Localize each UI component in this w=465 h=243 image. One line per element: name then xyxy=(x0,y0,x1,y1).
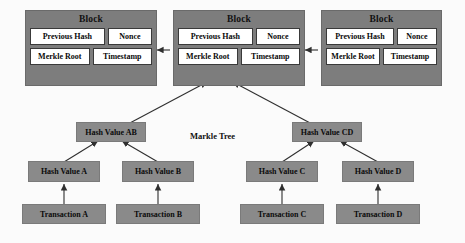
block-1-row-1: Previous Hash Nonce xyxy=(30,28,152,45)
block-2-nonce[interactable]: Nonce xyxy=(256,28,300,45)
block-3-row-1: Previous Hash Nonce xyxy=(326,28,437,45)
block-2-row-1: Previous Hash Nonce xyxy=(178,28,300,45)
block-1-previous-hash[interactable]: Previous Hash xyxy=(30,28,105,45)
block-1[interactable]: Block Previous Hash Nonce Merkle Root Ti… xyxy=(25,10,157,86)
block-2-row-2: Merkle Root Timestamp xyxy=(178,48,300,65)
node-hash-value-ab[interactable]: Hash Value AB xyxy=(76,122,146,142)
block-1-nonce[interactable]: Nonce xyxy=(108,28,152,45)
node-hash-value-a[interactable]: Hash Value A xyxy=(28,161,100,182)
block-1-timestamp[interactable]: Timestamp xyxy=(93,48,153,65)
block-3-header: Block xyxy=(322,11,441,28)
block-3-previous-hash[interactable]: Previous Hash xyxy=(326,28,394,45)
block-1-header: Block xyxy=(26,11,156,28)
node-transaction-d[interactable]: Transaction D xyxy=(336,204,420,224)
block-3-timestamp[interactable]: Timestamp xyxy=(383,48,437,65)
block-1-row-2: Merkle Root Timestamp xyxy=(30,48,152,65)
node-transaction-a[interactable]: Transaction A xyxy=(22,204,106,224)
block-2-timestamp[interactable]: Timestamp xyxy=(241,48,301,65)
block-1-merkle-root[interactable]: Merkle Root xyxy=(30,48,90,65)
block-2[interactable]: Block Previous Hash Nonce Merkle Root Ti… xyxy=(173,10,305,86)
node-hash-value-cd[interactable]: Hash Value CD xyxy=(292,122,362,142)
block-2-merkle-root[interactable]: Merkle Root xyxy=(178,48,238,65)
node-hash-value-d[interactable]: Hash Value D xyxy=(342,161,414,182)
block-3-nonce[interactable]: Nonce xyxy=(397,28,437,45)
node-hash-value-b[interactable]: Hash Value B xyxy=(122,161,194,182)
node-transaction-b[interactable]: Transaction B xyxy=(116,204,200,224)
node-transaction-c[interactable]: Transaction C xyxy=(240,204,324,224)
merkle-tree-label: Markle Tree xyxy=(190,131,235,141)
block-3-merkle-root[interactable]: Merkle Root xyxy=(326,48,380,65)
node-hash-value-c[interactable]: Hash Value C xyxy=(246,161,318,182)
block-3-row-2: Merkle Root Timestamp xyxy=(326,48,437,65)
block-2-previous-hash[interactable]: Previous Hash xyxy=(178,28,253,45)
blockchain-merkle-tree-diagram: Block Previous Hash Nonce Merkle Root Ti… xyxy=(0,0,465,243)
block-2-header: Block xyxy=(174,11,304,28)
block-3[interactable]: Block Previous Hash Nonce Merkle Root Ti… xyxy=(321,10,442,86)
